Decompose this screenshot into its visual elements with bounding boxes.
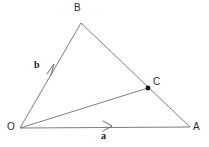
label-point-B: B: [74, 3, 81, 13]
line-segment-OA: [20, 127, 190, 128]
point-C-dot: [146, 86, 151, 91]
diagram-canvas: [0, 0, 209, 147]
label-vector-a: a: [101, 131, 106, 141]
label-point-C: C: [153, 77, 160, 87]
label-vector-b: b: [34, 60, 40, 70]
vector-diagram: O A B C b a: [0, 0, 209, 147]
vector-b-arrowhead: [47, 64, 54, 75]
label-point-O: O: [7, 122, 15, 132]
line-segment-BA: [81, 23, 190, 127]
label-point-A: A: [193, 122, 200, 132]
